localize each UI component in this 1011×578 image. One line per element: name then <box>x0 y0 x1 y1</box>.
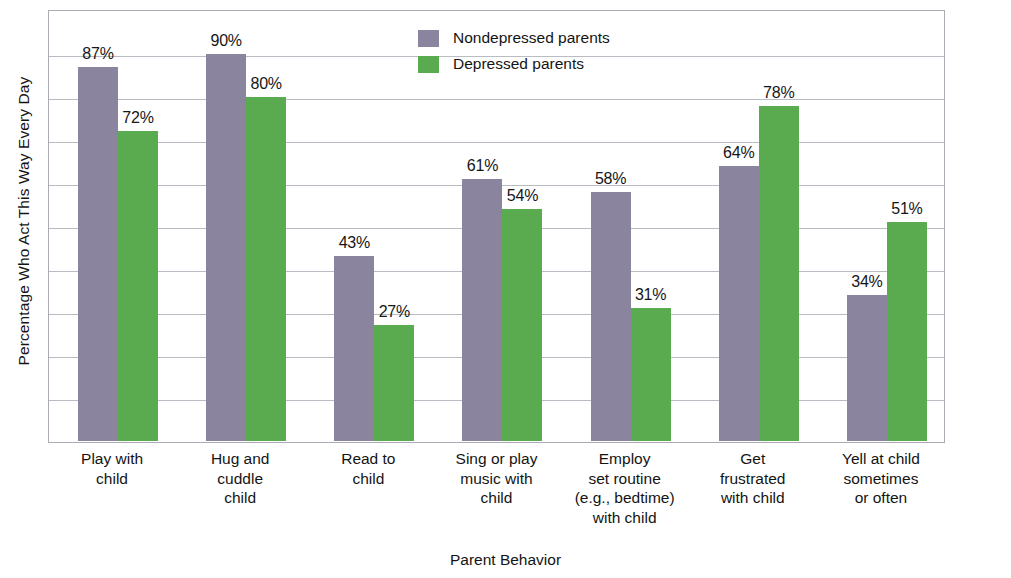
bar-depressed[interactable] <box>887 222 927 441</box>
legend-label-nondepressed: Nondepressed parents <box>453 30 610 46</box>
bar-value-label: 80% <box>234 75 298 93</box>
bar-nondepressed[interactable] <box>719 166 759 441</box>
x-axis-title: Parent Behavior <box>0 551 1011 569</box>
bar-depressed[interactable] <box>631 308 671 441</box>
bar-depressed[interactable] <box>246 97 286 441</box>
x-tick-label: Read tochild <box>296 449 440 488</box>
x-tick-label: Employset routine(e.g., bedtime)with chi… <box>553 449 697 528</box>
legend-label-depressed: Depressed parents <box>453 56 584 72</box>
bar-chart-figure: Percentage Who Act This Way Every Day 87… <box>0 0 1011 578</box>
x-tick-label: Yell at childsometimesor often <box>809 449 953 508</box>
bar-depressed[interactable] <box>374 325 414 441</box>
legend-item-depressed[interactable]: Depressed parents <box>418 51 610 77</box>
bar-depressed[interactable] <box>502 209 542 441</box>
bar-value-label: 51% <box>875 200 939 218</box>
legend-item-nondepressed[interactable]: Nondepressed parents <box>418 25 610 51</box>
bar-value-label: 43% <box>322 234 386 252</box>
bar-nondepressed[interactable] <box>206 54 246 441</box>
bar-nondepressed[interactable] <box>591 192 631 441</box>
bar-value-label: 90% <box>194 32 258 50</box>
x-tick-label: Hug andcuddlechild <box>168 449 312 508</box>
legend: Nondepressed parents Depressed parents <box>418 25 610 77</box>
bar-nondepressed[interactable] <box>847 295 887 441</box>
plot-area: 87%72%90%80%43%27%61%54%58%31%64%78%34%5… <box>48 10 945 443</box>
bar-nondepressed[interactable] <box>334 256 374 441</box>
bar-depressed[interactable] <box>118 131 158 441</box>
bar-group: 34%51% <box>818 11 946 442</box>
x-tick-label: Getfrustratedwith child <box>681 449 825 508</box>
bar-value-label: 27% <box>362 303 426 321</box>
bar-value-label: 31% <box>619 286 683 304</box>
legend-swatch-icon-depressed <box>418 56 439 73</box>
bar-value-label: 72% <box>106 109 170 127</box>
x-axis-tick-labels: Play withchildHug andcuddlechildRead toc… <box>48 449 945 549</box>
bar-group: 90%80% <box>177 11 305 442</box>
bar-depressed[interactable] <box>759 106 799 441</box>
bar-value-label: 61% <box>450 157 514 175</box>
bar-value-label: 87% <box>66 45 130 63</box>
bar-group: 64%78% <box>690 11 818 442</box>
x-tick-label: Play withchild <box>40 449 184 488</box>
bar-group: 87%72% <box>49 11 177 442</box>
bar-value-label: 54% <box>490 187 554 205</box>
bar-nondepressed[interactable] <box>462 179 502 441</box>
bar-value-label: 78% <box>747 84 811 102</box>
bar-group: 43%27% <box>305 11 433 442</box>
y-axis-title: Percentage Who Act This Way Every Day <box>15 1 33 441</box>
bar-value-label: 58% <box>579 170 643 188</box>
legend-swatch-icon-nondepressed <box>418 30 439 47</box>
x-tick-label: Sing or playmusic withchild <box>424 449 568 508</box>
